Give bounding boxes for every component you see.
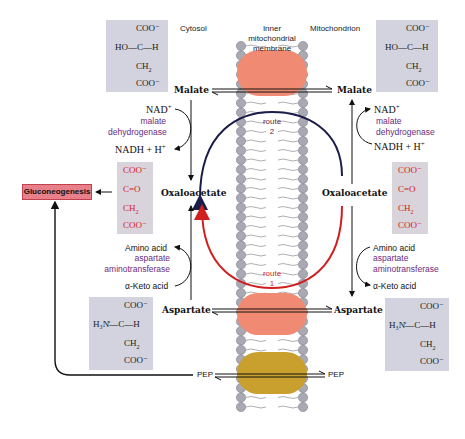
aspartate-structure-cytosol: COO⁻ H₃N̊—C—H CH2 COO⁻: [89, 297, 153, 370]
aspartate-aminotransferase-mito: aspartateaminotransferase: [373, 253, 439, 275]
nad-mito-label: NAD+: [374, 103, 400, 115]
cytosol-label: Cytosol: [180, 24, 207, 34]
left-amino-curve-arrow: [175, 247, 191, 286]
pep-cytosol-label: PEP: [197, 370, 213, 379]
structure-bottom: COO⁻: [420, 356, 444, 366]
malate-aspartate-shuttle-diagram: Cytosol Inner mitochondrial membrane Mit…: [0, 0, 465, 439]
nadh-cytosol-label: NADH + H+: [115, 143, 166, 155]
structure-bottom: COO⁻: [123, 220, 147, 230]
aspartate-mito-label: Aspartate: [334, 305, 383, 315]
structure-mid: HO—C—H: [115, 42, 159, 52]
right-amino-curve-arrow: [357, 247, 371, 285]
membrane-label-line1: Inner: [240, 24, 304, 34]
left-nad-curve-arrow: [175, 109, 191, 149]
mitochondrion-label: Mitochondrion: [310, 24, 360, 34]
aspartate-transporter: [237, 293, 307, 335]
structure-top: COO⁻: [124, 300, 148, 310]
structure-top: COO⁻: [420, 301, 444, 311]
membrane-label-line3: membrane: [240, 44, 304, 54]
pep-transporter: [237, 352, 307, 394]
aspartate-aminotransferase-cytosol: aspartateaminotransferase: [96, 253, 170, 275]
structure-ch2: CH2: [136, 61, 152, 73]
membrane-label: Inner mitochondrial membrane: [240, 24, 304, 54]
oxaloacetate-structure-mito: COO⁻ C=O CH2 COO⁻: [392, 162, 428, 234]
gluconeogenesis-box: Gluconeogenesis: [22, 184, 92, 200]
structure-mid: C=O: [123, 184, 141, 194]
membrane-label-line2: mitochondrial: [240, 34, 304, 44]
right-nad-curve-arrow: [357, 109, 372, 144]
malate-structure-cytosol: COO⁻ HO—C—H CH2 COO⁻: [106, 20, 168, 92]
keto-acid-mito-label: α-Keto acid: [373, 281, 416, 291]
structure-mid: H₃N̊—C—H: [389, 320, 436, 330]
oxaloacetate-structure-cytosol: COO⁻ C=O CH2 COO⁻: [117, 162, 153, 234]
structure-top: COO⁻: [398, 165, 422, 175]
malate-dehydrogenase-cytosol: malatedehydrogenase: [108, 116, 166, 138]
structure-bottom: COO⁻: [406, 78, 430, 88]
keto-acid-cytosol-label: α-Keto acid: [125, 281, 168, 291]
malate-dehydrogenase-mito: malatedehydrogenase: [376, 116, 435, 138]
structure-bottom: COO⁻: [398, 220, 422, 230]
structure-bottom: COO⁻: [136, 78, 160, 88]
structure-mid: HO—C—H: [385, 42, 429, 52]
structure-ch2: CH2: [420, 339, 436, 351]
structure-ch2: CH2: [123, 203, 139, 215]
structure-top: COO⁻: [123, 165, 147, 175]
aspartate-structure-mito: COO⁻ H₃N̊—C—H CH2 COO⁻: [385, 298, 449, 371]
nadh-mito-label: NADH + H+: [374, 140, 425, 152]
structure-mid: H₃N̊—C—H: [93, 319, 140, 329]
route-1-label: route1: [258, 269, 286, 289]
structure-ch2: CH2: [406, 61, 422, 73]
oxaloacetate-mito-label: Oxaloacetate: [322, 188, 387, 198]
structure-top: COO⁻: [136, 23, 160, 33]
oxaloacetate-cytosol-label: Oxaloacetate: [161, 188, 226, 198]
structure-bottom: COO⁻: [124, 355, 148, 365]
pep-mito-label: PEP: [328, 370, 344, 379]
malate-mito-label: Malate: [337, 85, 372, 95]
structure-top: COO⁻: [406, 23, 430, 33]
malate-cytosol-label: Malate: [174, 85, 209, 95]
structure-ch2: CH2: [124, 338, 140, 350]
aspartate-cytosol-label: Aspartate: [162, 305, 211, 315]
route-2-label: route2: [258, 117, 286, 137]
structure-ch2: CH2: [398, 203, 414, 215]
structure-mid: C=O: [398, 184, 416, 194]
amino-acid-mito-label: Amino acid: [373, 243, 415, 253]
nad-cytosol-label: NAD+: [146, 103, 172, 115]
malate-structure-mito: COO⁻ HO—C—H CH2 COO⁻: [376, 20, 438, 92]
amino-acid-cytosol-label: Amino acid: [125, 243, 167, 253]
